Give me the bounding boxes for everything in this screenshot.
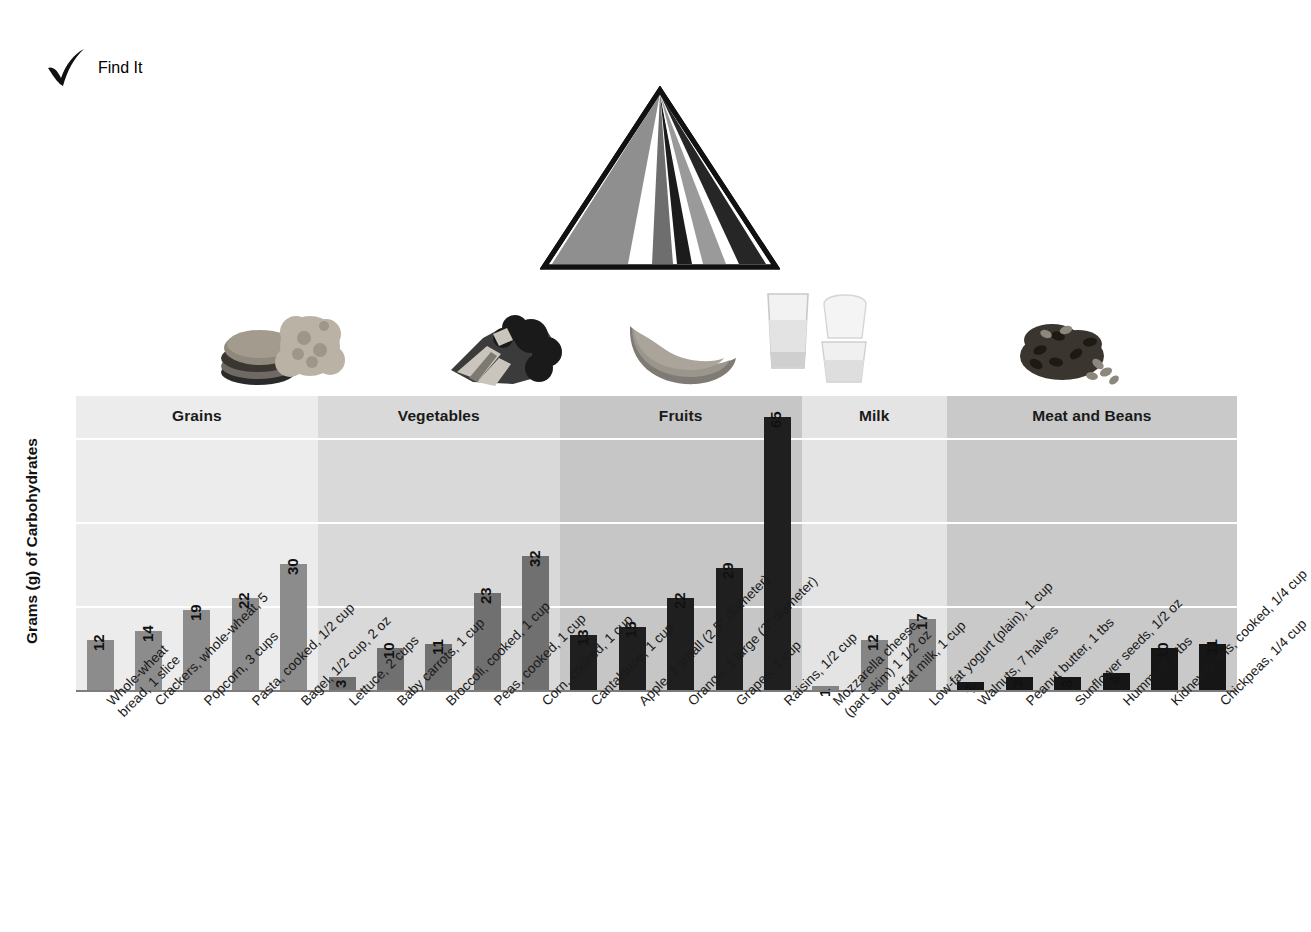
gridline [76,438,1237,440]
y-axis-title: Grams (g) of Carbohydrates [23,391,41,691]
bar-value-label: 19 [187,605,204,622]
gridline [76,522,1237,524]
bar-value-label: 12 [90,634,107,651]
group-title-vegetables: Vegetables [318,407,560,425]
bar-value-label: 14 [139,626,156,643]
bar-value-label: 29 [719,563,736,580]
group-title-milk: Milk [802,407,947,425]
bar-value-label: 65 [767,411,784,428]
group-title-grains: Grains [76,407,318,425]
bar-value-label: 30 [284,558,301,575]
group-title-meat-and-beans: Meat and Beans [947,407,1237,425]
bar-value-label: 32 [526,550,543,567]
bar-value-label: 23 [477,588,494,605]
bar-value-label: 22 [671,592,688,609]
